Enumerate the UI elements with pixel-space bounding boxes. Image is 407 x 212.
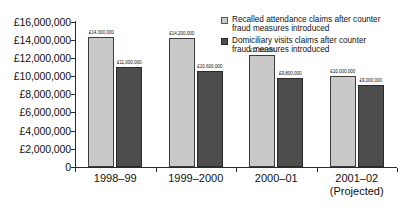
x-axis-tick-mark [397,168,398,172]
bar-domiciliary-visits [277,78,303,167]
x-axis-category-line: 1999–2000 [168,172,223,184]
bar-domiciliary-visits [116,67,142,167]
bar-domiciliary-visits [197,71,223,167]
bar-value-label: £10,600,000 [190,64,230,69]
y-axis-tick-label: £10,000,000 [14,70,71,82]
legend-swatch-dark [221,38,228,45]
bar-value-label: £9,800,000 [270,71,310,76]
bar-value-label: £9,000,000 [351,78,391,83]
y-axis-tick-label: £4,000,000 [19,125,71,137]
legend-label: Recalled attendance claims after counter… [232,15,382,34]
y-axis-tick-label: £12,000,000 [14,52,71,64]
x-axis-category-label: 2000–01 [236,172,317,185]
x-axis-category-label: 1998–99 [75,172,156,185]
bar-value-label: £14,200,000 [162,31,202,36]
y-axis-tick-label: £14,000,000 [14,34,71,46]
y-axis-labels: £16,000,000£14,000,000£12,000,000£10,000… [0,0,71,212]
x-axis-category-line: 2000–01 [255,172,298,184]
legend-swatch-light [221,17,228,24]
legend-item: Domiciliary visits claims after counter … [221,36,407,55]
x-axis-category-line: 1998–99 [94,172,137,184]
bar-value-label: £11,000,000 [109,60,149,65]
bar-value-label: £14,300,000 [81,30,121,35]
x-axis-category-line: 2001–02 [335,172,378,184]
legend-item: Recalled attendance claims after counter… [221,15,407,34]
y-axis-tick-label: £6,000,000 [19,106,71,118]
legend-label: Domiciliary visits claims after counter … [232,36,382,55]
y-axis-tick-label: £2,000,000 [19,143,71,155]
bar-domiciliary-visits [358,85,384,167]
chart-legend: Recalled attendance claims after counter… [221,15,407,57]
bar-value-label: £10,000,000 [323,69,363,74]
y-axis-tick-label: £8,000,000 [19,88,71,100]
x-axis-category-line: (Projected) [317,185,398,198]
y-axis-tick-label: £16,000,000 [14,16,71,28]
bar-recalled-attendance [88,37,114,167]
bar-recalled-attendance [169,38,195,167]
x-axis-category-label: 1999–2000 [156,172,237,185]
bar-recalled-attendance [330,76,356,167]
bar-chart: £16,000,000£14,000,000£12,000,000£10,000… [0,0,407,212]
x-axis-category-label: 2001–02(Projected) [317,172,398,197]
